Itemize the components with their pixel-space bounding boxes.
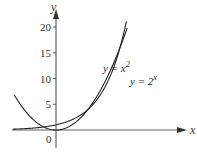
y-tick-label: 15 (40, 47, 52, 59)
y-tick-label: 10 (40, 73, 52, 85)
curve-label-two-to-x: y = 2x (129, 73, 157, 87)
y-ticks: 5101520 (40, 21, 56, 110)
curve-label-x-squared: y = x2 (102, 60, 130, 74)
x-axis-label: x (189, 123, 196, 137)
x-axis-arrow-icon (177, 127, 187, 133)
curve-x-squared (14, 28, 127, 130)
y-tick-label: 20 (40, 21, 52, 33)
origin-label: 0 (46, 133, 52, 145)
curves (13, 21, 127, 130)
function-graph: x y 0 5101520 y = x2 y = 2x (0, 0, 197, 155)
y-axis-label: y (50, 0, 57, 14)
curve-labels: y = x2 y = 2x (102, 60, 157, 87)
y-tick-label: 5 (46, 98, 52, 110)
curve-two-to-x (13, 21, 127, 129)
